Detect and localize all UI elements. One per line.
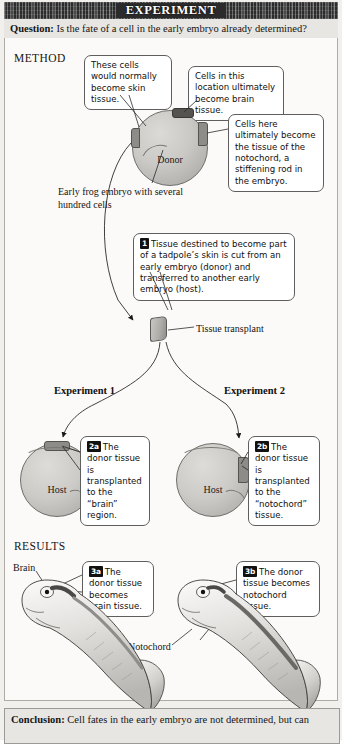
tissue-transplant-label: Tissue transplant (196, 322, 264, 335)
method-section-title: METHOD (14, 52, 66, 64)
donor-brain-patch (172, 108, 194, 118)
callout-step-1: 1Tissue destined to become part of a tad… (133, 233, 295, 301)
callout-step-2a: 2aThe donor tissue is transplanted to th… (80, 436, 150, 526)
donor-notochord-patch (198, 122, 208, 146)
step-2a-badge: 2a (87, 441, 101, 452)
step-1-badge: 1 (140, 238, 149, 249)
conclusion-label: Conclusion: (11, 714, 65, 725)
step-2a-text: The donor tissue is transplanted to the … (87, 442, 142, 520)
results-section-title: RESULTS (14, 540, 66, 552)
notochord-anatomy-label: Notochord (128, 640, 171, 653)
experiment-title: EXPERIMENT (116, 3, 227, 18)
conclusion-bar: Conclusion: Cell fates in the early embr… (4, 708, 340, 744)
conclusion-body: Cell fates in the early embryo are not d… (65, 714, 309, 725)
step-2b-badge: 2b (255, 441, 269, 452)
tissue-transplant-block (150, 316, 167, 342)
step-3a-badge: 3a (89, 566, 103, 577)
donor-skin-patch (131, 128, 140, 148)
callout-step-3b: 3bThe donor tissue becomes notochord tis… (236, 561, 320, 617)
step-1-text: Tissue destined to become part of a tadp… (140, 239, 287, 294)
host-2-rim-arc (179, 447, 243, 471)
experiment-header-bar: EXPERIMENT (4, 2, 338, 19)
question-bar: Question: Is the fate of a cell in the e… (4, 19, 338, 39)
callout-step-3a: 3aThe donor tissue becomes brain tissue. (82, 561, 154, 617)
callout-notochord-tissue: Cells here ultimately become the tissue … (228, 114, 324, 192)
callout-step-2b: 2bThe donor tissue is transplanted to th… (248, 436, 320, 526)
question-label: Question: (10, 23, 54, 34)
step-3b-badge: 3b (243, 566, 257, 577)
question-text-row: Question: Is the fate of a cell in the e… (4, 23, 307, 34)
host-1-rim-arc (23, 447, 87, 471)
experiment-1-title: Experiment 1 (54, 385, 115, 396)
question-body: Is the fate of a cell in the early embry… (54, 23, 307, 34)
conclusion-text-row: Conclusion: Cell fates in the early embr… (5, 713, 309, 726)
callout-skin-tissue: These cells would normally become skin t… (84, 55, 172, 110)
donor-embryo-caption: Early frog embryo with several hundred c… (58, 185, 198, 211)
brain-anatomy-label: Brain (13, 561, 35, 574)
experiment-2-title: Experiment 2 (224, 385, 285, 396)
step-2b-text: The donor tissue is transplanted to the … (255, 442, 310, 520)
